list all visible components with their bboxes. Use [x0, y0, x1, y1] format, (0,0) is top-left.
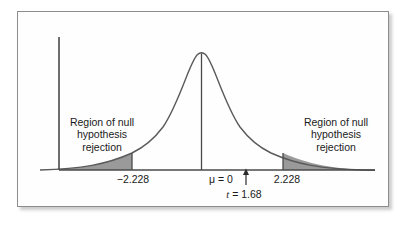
left-rejection-region-line3: rejection: [56, 141, 148, 153]
tick-label-negative-critical: −2.228: [102, 173, 164, 185]
figure-frame: Region of null hypothesis rejection Regi…: [17, 11, 389, 207]
right-rejection-region-line1: Region of null: [290, 116, 382, 128]
right-rejection-region-label: Region of null hypothesis rejection: [290, 116, 382, 153]
tick-label-mean: μ = 0: [190, 173, 252, 185]
test-statistic-value: = 1.68: [229, 188, 261, 200]
tick-label-positive-critical: 2.228: [256, 173, 318, 185]
left-rejection-region-line2: hypothesis: [56, 128, 148, 140]
left-rejection-region-line1: Region of null: [56, 116, 148, 128]
left-rejection-region-label: Region of null hypothesis rejection: [56, 116, 148, 153]
right-rejection-region-line3: rejection: [290, 141, 382, 153]
left-rejection-tail: [40, 153, 132, 170]
right-rejection-region-line2: hypothesis: [290, 128, 382, 140]
test-statistic-label: t = 1.68: [194, 188, 294, 200]
